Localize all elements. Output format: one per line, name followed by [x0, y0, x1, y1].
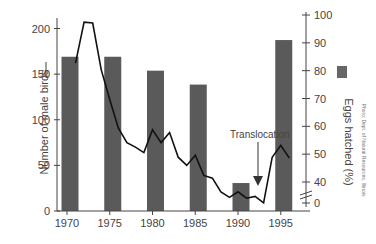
bar-1995 [275, 40, 292, 211]
svg-text:1985: 1985 [183, 217, 207, 229]
svg-text:70: 70 [314, 93, 326, 105]
svg-text:90: 90 [314, 37, 326, 49]
svg-text:0: 0 [44, 205, 50, 217]
chart: 0501001502001970197519801985199019950405… [0, 0, 376, 244]
photo-credit: Photo: Dept. of Natural Resources, Illin… [361, 104, 367, 197]
bars-eggs-hatched [62, 40, 293, 211]
right-axis-label: Eggs hatched (%) [343, 98, 355, 185]
bar-1990 [233, 183, 250, 211]
svg-text:1975: 1975 [98, 217, 122, 229]
svg-text:40: 40 [314, 176, 326, 188]
bar-1970 [62, 57, 79, 211]
svg-text:1995: 1995 [269, 217, 293, 229]
legend-swatch [337, 66, 347, 78]
svg-text:60: 60 [314, 120, 326, 132]
svg-text:50: 50 [314, 148, 326, 160]
bar-1985 [190, 85, 207, 211]
bar-1980 [147, 71, 164, 211]
svg-text:1970: 1970 [55, 217, 79, 229]
svg-text:200: 200 [32, 23, 50, 35]
svg-text:1990: 1990 [226, 217, 250, 229]
annotation-label: Translocation [230, 129, 290, 140]
svg-text:1980: 1980 [140, 217, 164, 229]
svg-text:0: 0 [314, 197, 320, 209]
left-axis-label: Number of male birds [38, 69, 50, 175]
bar-1975 [104, 57, 121, 211]
svg-text:80: 80 [314, 65, 326, 77]
svg-text:100: 100 [314, 9, 332, 21]
